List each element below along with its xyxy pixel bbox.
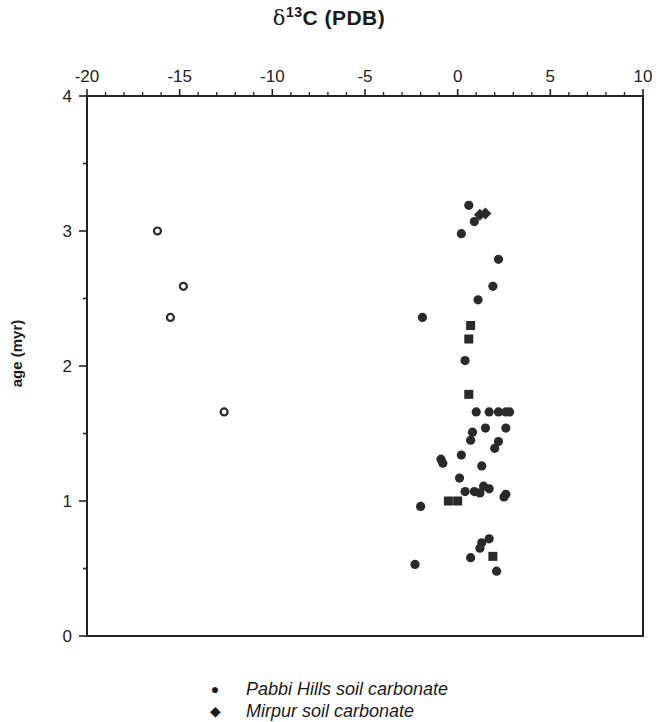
x-axis-ticks: -20-15-10-50510 xyxy=(75,67,653,96)
x-tick-label: -15 xyxy=(167,67,192,86)
x-tick-label: 0 xyxy=(453,67,462,86)
data-point xyxy=(410,560,419,569)
filled-diamond-icon: ◆ xyxy=(200,700,230,722)
data-point xyxy=(490,444,499,453)
y-axis-label: age (myr) xyxy=(8,304,25,404)
data-point xyxy=(453,497,462,506)
data-point xyxy=(167,314,174,321)
data-point xyxy=(485,484,494,493)
data-point xyxy=(466,436,475,445)
x-tick-label: -20 xyxy=(75,67,100,86)
data-point xyxy=(468,428,477,437)
x-tick-label: -10 xyxy=(260,67,285,86)
y-tick-label: 4 xyxy=(63,87,72,106)
data-points xyxy=(154,201,514,576)
data-point xyxy=(466,553,475,562)
data-point xyxy=(499,492,508,501)
legend-label: Mirpur soil carbonate xyxy=(246,700,414,722)
data-point xyxy=(501,424,510,433)
data-point xyxy=(466,321,475,330)
y-tick-label: 2 xyxy=(63,357,72,376)
data-point xyxy=(492,567,501,576)
data-point xyxy=(460,487,469,496)
data-point xyxy=(455,473,464,482)
data-point xyxy=(180,283,187,290)
data-point xyxy=(488,552,497,561)
x-tick-label: -5 xyxy=(357,67,372,86)
data-point xyxy=(221,408,228,415)
scatter-plot: -20-15-10-50510 01234 xyxy=(0,0,658,722)
y-axis-ticks: 01234 xyxy=(63,87,87,646)
data-point xyxy=(464,201,473,210)
data-point xyxy=(460,356,469,365)
data-point xyxy=(457,451,466,460)
data-point xyxy=(472,407,481,416)
x-tick-label: 5 xyxy=(546,67,555,86)
data-point xyxy=(154,228,161,235)
y-tick-label: 3 xyxy=(63,222,72,241)
data-point xyxy=(475,544,484,553)
data-point xyxy=(473,295,482,304)
data-point xyxy=(444,497,453,506)
data-point xyxy=(485,407,494,416)
data-point xyxy=(416,502,425,511)
filled-circle-icon: ● xyxy=(200,678,230,700)
data-point xyxy=(464,390,473,399)
y-tick-label: 1 xyxy=(63,492,72,511)
data-point xyxy=(438,459,447,468)
data-point xyxy=(488,282,497,291)
data-point xyxy=(477,461,486,470)
data-point xyxy=(475,488,484,497)
data-point xyxy=(505,407,514,416)
y-tick-label: 0 xyxy=(63,627,72,646)
legend-item-mirpur: ◆ Mirpur soil carbonate xyxy=(200,700,448,722)
data-point xyxy=(457,229,466,238)
legend-item-pabbi: ● Pabbi Hills soil carbonate xyxy=(200,678,448,700)
legend-label: Pabbi Hills soil carbonate xyxy=(246,678,448,700)
plot-frame xyxy=(87,96,643,636)
legend: ● Pabbi Hills soil carbonate ◆ Mirpur so… xyxy=(200,678,448,722)
data-point xyxy=(481,424,490,433)
data-point xyxy=(418,313,427,322)
data-point xyxy=(494,255,503,264)
data-point xyxy=(464,335,473,344)
x-tick-label: 10 xyxy=(634,67,653,86)
